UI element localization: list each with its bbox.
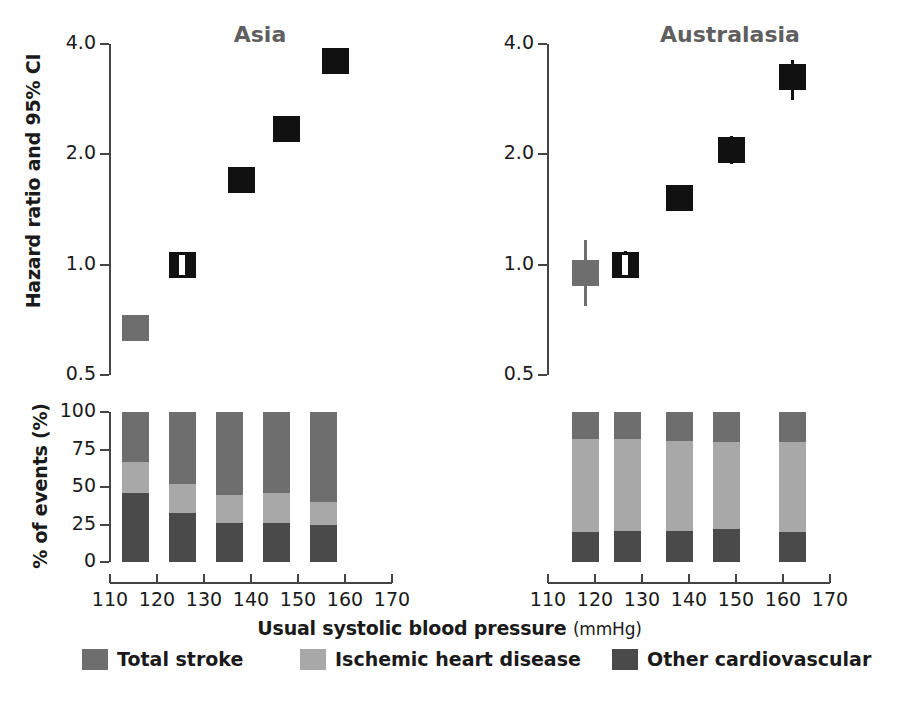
legend-swatch-2 [612, 649, 638, 670]
bar-segment-australasia-0-1 [572, 439, 599, 532]
x-tick-australasia-3 [688, 574, 690, 583]
legend-item-1[interactable]: Ischemic heart disease [300, 648, 581, 670]
bar-segment-asia-1-1 [169, 484, 196, 513]
bar-segment-australasia-1-1 [614, 439, 641, 531]
hazard-marker-asia-4[interactable] [320, 45, 352, 75]
stacked-bar-australasia-2[interactable] [666, 412, 693, 562]
percent-y-tick-1 [100, 449, 109, 451]
stacked-bar-australasia-1[interactable] [614, 412, 641, 562]
hazard-marker-australasia-2[interactable] [664, 179, 696, 217]
bar-segment-asia-2-1 [216, 495, 243, 524]
hazard-marker-australasia-1[interactable] [610, 245, 642, 284]
stacked-bar-asia-2[interactable] [216, 412, 243, 562]
hazard-point-box-australasia-1 [612, 252, 639, 278]
x-tick-asia-5 [344, 574, 346, 583]
x-tick-label-australasia-6: 170 [800, 588, 860, 610]
stacked-bar-asia-0[interactable] [122, 412, 149, 562]
hazard-y-tick-asia-0 [100, 43, 109, 45]
x-tick-label-asia-6: 170 [362, 588, 422, 610]
bar-segment-asia-0-0 [122, 493, 149, 562]
hazard-y-tick-label-australasia-0: 4.0 [476, 31, 534, 53]
stacked-bar-asia-3[interactable] [263, 412, 290, 562]
y-axis-label-hazard-ratio: Hazard ratio and 95% CI [22, 31, 44, 331]
hazard-y-tick-australasia-1 [538, 153, 547, 155]
hazard-y-axis-spine-australasia [547, 44, 549, 375]
bar-segment-asia-2-0 [216, 523, 243, 562]
percent-y-tick-label-0: 100 [38, 399, 96, 421]
hazard-point-box-asia-0 [122, 315, 149, 341]
bar-segment-asia-1-0 [169, 513, 196, 563]
bar-segment-australasia-4-1 [779, 442, 806, 532]
stacked-bar-australasia-4[interactable] [779, 412, 806, 562]
x-tick-australasia-2 [641, 574, 643, 583]
percent-y-tick-label-2: 50 [38, 474, 96, 496]
bar-segment-australasia-3-1 [713, 442, 740, 529]
bar-segment-australasia-4-0 [779, 532, 806, 562]
hazard-y-tick-asia-2 [100, 264, 109, 266]
stacked-bar-australasia-0[interactable] [572, 412, 599, 562]
stacked-bar-australasia-3[interactable] [713, 412, 740, 562]
reference-marker-notch-australasia [622, 255, 628, 275]
legend-item-2[interactable]: Other cardiovascular [612, 648, 871, 670]
bar-segment-asia-3-0 [263, 523, 290, 562]
x-tick-asia-2 [203, 574, 205, 583]
bar-segment-asia-3-2 [263, 412, 290, 493]
x-axis-label-main: Usual systolic blood pressure [257, 617, 566, 639]
x-tick-asia-3 [250, 574, 252, 583]
legend-label-1: Ischemic heart disease [335, 648, 581, 670]
percent-y-tick-label-1: 75 [38, 437, 96, 459]
percent-y-tick-label-4: 0 [38, 549, 96, 571]
hazard-marker-asia-0[interactable] [120, 313, 152, 344]
hazard-point-box-australasia-4 [779, 64, 806, 90]
hazard-marker-asia-3[interactable] [270, 113, 302, 143]
x-tick-australasia-4 [735, 574, 737, 583]
hazard-marker-australasia-3[interactable] [715, 130, 747, 170]
bar-segment-asia-0-2 [122, 412, 149, 462]
hazard-point-box-australasia-2 [666, 185, 693, 211]
hazard-y-tick-asia-1 [100, 153, 109, 155]
bar-segment-australasia-1-2 [614, 412, 641, 439]
stacked-bar-asia-1[interactable] [169, 412, 196, 562]
bar-segment-asia-0-1 [122, 462, 149, 494]
x-tick-australasia-6 [829, 574, 831, 583]
hazard-marker-asia-1[interactable] [167, 252, 199, 277]
x-tick-asia-0 [109, 574, 111, 583]
hazard-marker-asia-2[interactable] [226, 163, 258, 198]
x-axis-label-unit: (mmHg) [573, 619, 642, 639]
reference-marker-notch-asia [179, 255, 185, 275]
legend-item-0[interactable]: Total stroke [82, 648, 243, 670]
percent-y-tick-0 [100, 411, 109, 413]
x-tick-asia-4 [297, 574, 299, 583]
percent-y-tick-2 [100, 486, 109, 488]
hazard-marker-australasia-4[interactable] [776, 54, 808, 106]
bar-segment-australasia-3-0 [713, 529, 740, 562]
hazard-marker-australasia-0[interactable] [570, 234, 602, 313]
hazard-y-tick-australasia-3 [538, 374, 547, 376]
hazard-y-tick-australasia-0 [538, 43, 547, 45]
hazard-point-box-asia-4 [322, 48, 349, 74]
legend-swatch-0 [82, 649, 108, 670]
percent-y-tick-3 [100, 524, 109, 526]
legend-label-0: Total stroke [117, 648, 243, 670]
hazard-point-box-asia-1 [169, 252, 196, 278]
hazard-y-tick-asia-3 [100, 374, 109, 376]
bar-segment-australasia-2-0 [666, 531, 693, 563]
x-tick-australasia-1 [594, 574, 596, 583]
hazard-y-tick-label-australasia-2: 1.0 [476, 252, 534, 274]
x-tick-australasia-0 [547, 574, 549, 583]
legend-label-2: Other cardiovascular [647, 648, 871, 670]
stacked-bar-asia-4[interactable] [310, 412, 337, 562]
bar-segment-australasia-4-2 [779, 412, 806, 442]
hazard-point-box-asia-3 [273, 116, 300, 142]
figure-canvas: Hazard ratio and 95% CI % of events (%) … [0, 0, 899, 713]
hazard-y-tick-label-australasia-3: 0.5 [476, 362, 534, 384]
hazard-y-tick-label-asia-3: 0.5 [38, 362, 96, 384]
legend-swatch-1 [300, 649, 326, 670]
bar-segment-asia-2-2 [216, 412, 243, 495]
hazard-y-tick-australasia-2 [538, 264, 547, 266]
percent-y-tick-label-3: 25 [38, 512, 96, 534]
hazard-point-box-australasia-0 [572, 260, 599, 286]
bar-segment-australasia-1-0 [614, 531, 641, 563]
x-tick-asia-1 [156, 574, 158, 583]
x-tick-asia-6 [391, 574, 393, 583]
